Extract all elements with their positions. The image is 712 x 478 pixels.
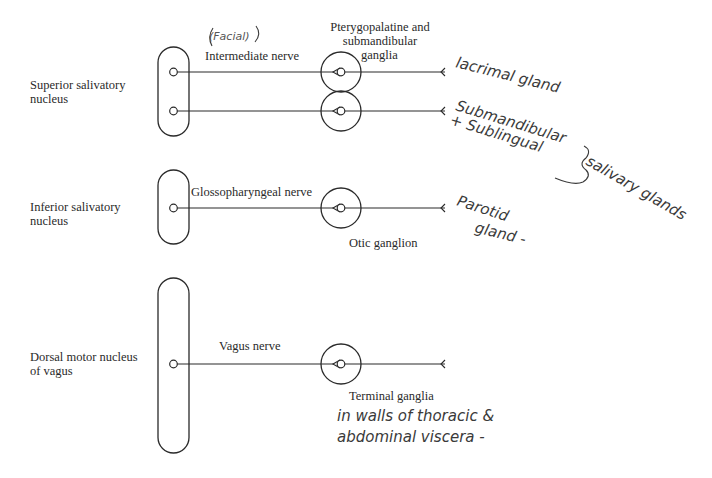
svg-text:Dorsal motor nucleus: Dorsal motor nucleus xyxy=(30,350,138,364)
neuron-soma-icon xyxy=(170,204,178,212)
ganglion-label-terminal: Terminal ganglia xyxy=(349,389,434,403)
target-label-parotid: Parotid gland - xyxy=(455,192,528,249)
svg-text:nucleus: nucleus xyxy=(30,214,68,228)
svg-text:of vagus: of vagus xyxy=(30,364,73,378)
svg-text:Superior salivatory: Superior salivatory xyxy=(30,78,126,92)
nucleus-label-inferior-salivatory: Inferior salivatory nucleus xyxy=(30,200,121,228)
target-label-salivary-glands: salivary glands xyxy=(583,152,690,224)
svg-text:submandibular: submandibular xyxy=(343,34,418,48)
nerve-label-glossopharyngeal: Glossopharyngeal nerve xyxy=(191,185,313,199)
nerve-label-vagus: Vagus nerve xyxy=(219,339,281,353)
annotation-facial: (Facial) xyxy=(209,30,250,43)
nerve-label-intermediate: Intermediate nerve xyxy=(205,49,299,63)
neuron-soma-icon xyxy=(170,107,178,115)
neuron-soma-icon xyxy=(170,360,178,368)
svg-text:Pterygopalatine and: Pterygopalatine and xyxy=(330,20,430,34)
nucleus-capsule-superior-salivatory xyxy=(158,47,189,136)
paren-right-icon xyxy=(255,26,259,42)
neuron-soma-icon xyxy=(170,68,178,76)
nucleus-label-dorsal-motor-vagus: Dorsal motor nucleus of vagus xyxy=(30,350,138,378)
target-label-submandibular-sublingual: Submandibular + Sublingual xyxy=(448,97,569,157)
svg-text:in walls of thoracic &: in walls of thoracic & xyxy=(337,407,494,425)
svg-text:ganglia: ganglia xyxy=(361,48,398,62)
ganglion-label-pterygopalatine-submandibular: Pterygopalatine and submandibular gangli… xyxy=(330,20,430,62)
annotation-terminal-location: in walls of thoracic & abdominal viscera… xyxy=(337,407,494,446)
svg-text:nucleus: nucleus xyxy=(30,92,68,106)
nucleus-label-superior-salivatory: Superior salivatory nucleus xyxy=(30,78,126,106)
svg-text:abdominal viscera -: abdominal viscera - xyxy=(337,428,485,446)
svg-text:Inferior salivatory: Inferior salivatory xyxy=(30,200,121,214)
target-label-lacrimal: lacrimal gland xyxy=(454,53,562,96)
ganglion-label-otic: Otic ganglion xyxy=(349,236,418,250)
parasympathetic-diagram: Superior salivatory nucleus Inferior sal… xyxy=(0,0,712,478)
